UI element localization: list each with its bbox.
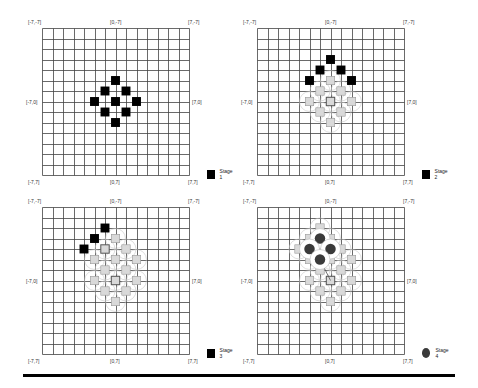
active-stage-square xyxy=(122,87,131,96)
previous-stage-square xyxy=(347,276,355,284)
previous-stage-square xyxy=(111,297,119,305)
label-top-left: [-7,-7] xyxy=(243,199,256,204)
label-top-right: [7,-7] xyxy=(403,199,414,204)
active-stage-square xyxy=(90,97,99,106)
previous-stage-square xyxy=(316,87,324,95)
previous-stage-square xyxy=(347,97,355,105)
coordinate-grid xyxy=(42,207,190,355)
previous-stage-square xyxy=(111,255,119,263)
label-mid-left: [-7,0] xyxy=(26,100,37,105)
label-top-right: [7,-7] xyxy=(403,20,414,25)
label-top-right: [7,-7] xyxy=(188,20,199,25)
label-bottom-center: [0,7] xyxy=(325,359,335,364)
legend-label: Stage 4 xyxy=(435,347,450,359)
active-stage-square xyxy=(111,97,120,106)
active-stage-square xyxy=(101,108,110,117)
active-stage-square xyxy=(347,76,356,85)
label-mid-left: [-7,0] xyxy=(241,279,252,284)
legend-label: Stage 3 xyxy=(220,347,235,359)
active-stage-square xyxy=(337,66,346,75)
previous-stage-square xyxy=(132,276,140,284)
label-bottom-left: [-7,7] xyxy=(243,359,254,364)
previous-stage-square xyxy=(316,287,324,295)
previous-stage-square xyxy=(132,255,140,263)
legend-stage-3: Stage 3 xyxy=(207,347,234,359)
active-stage-square xyxy=(316,66,325,75)
previous-stage-square xyxy=(122,287,130,295)
label-top-left: [-7,-7] xyxy=(28,20,41,25)
previous-stage-square xyxy=(326,297,334,305)
active-stage-square xyxy=(111,76,120,85)
bottom-divider-rule xyxy=(23,374,455,377)
previous-stage-square xyxy=(101,287,109,295)
label-top-center: [0,-7] xyxy=(110,20,121,25)
previous-stage-square xyxy=(122,245,130,253)
previous-stage-square xyxy=(326,97,334,105)
label-bottom-center: [0,7] xyxy=(110,180,120,185)
label-bottom-right: [7,7] xyxy=(188,359,198,364)
label-bottom-right: [7,7] xyxy=(403,359,413,364)
label-mid-left: [-7,0] xyxy=(241,100,252,105)
label-mid-right: [7,0] xyxy=(407,279,417,284)
label-bottom-left: [-7,7] xyxy=(243,180,254,185)
previous-stage-square xyxy=(90,276,98,284)
active-stage-square xyxy=(132,97,141,106)
previous-stage-square xyxy=(305,97,313,105)
previous-stage-square xyxy=(337,108,345,116)
coordinate-grid xyxy=(257,28,405,176)
active-stage-square xyxy=(111,118,120,127)
previous-stage-square xyxy=(326,118,334,126)
label-bottom-center: [0,7] xyxy=(110,359,120,364)
label-bottom-right: [7,7] xyxy=(188,180,198,185)
label-top-right: [7,-7] xyxy=(188,199,199,204)
label-top-center: [0,-7] xyxy=(325,199,336,204)
legend-stage-1: Stage 1 xyxy=(207,168,234,180)
previous-stage-square xyxy=(337,287,345,295)
previous-stage-square xyxy=(90,255,98,263)
square-marker-icon xyxy=(422,170,430,179)
previous-stage-square xyxy=(101,266,109,274)
active-stage-square xyxy=(305,76,314,85)
previous-stage-square xyxy=(111,276,119,284)
label-bottom-left: [-7,7] xyxy=(28,180,39,185)
active-stage-square xyxy=(122,108,131,117)
square-marker-icon xyxy=(207,349,215,358)
active-stage-square xyxy=(101,87,110,96)
active-stage-square xyxy=(80,245,89,254)
previous-stage-square xyxy=(347,255,355,263)
previous-stage-square xyxy=(111,234,119,242)
legend-label: Stage 2 xyxy=(435,168,450,180)
active-stage-square xyxy=(90,234,99,243)
coordinate-grid xyxy=(257,207,405,355)
legend-stage-2: Stage 2 xyxy=(422,168,449,180)
previous-stage-square xyxy=(337,87,345,95)
label-top-left: [-7,-7] xyxy=(28,199,41,204)
label-top-left: [-7,-7] xyxy=(243,20,256,25)
legend-label: Stage 1 xyxy=(220,168,235,180)
label-mid-right: [7,0] xyxy=(192,100,202,105)
label-bottom-center: [0,7] xyxy=(325,180,335,185)
label-top-center: [0,-7] xyxy=(110,199,121,204)
stage-circle-marker xyxy=(315,254,326,265)
previous-stage-square xyxy=(101,245,109,253)
circle-marker-icon xyxy=(422,348,430,358)
label-mid-right: [7,0] xyxy=(407,100,417,105)
label-top-center: [0,-7] xyxy=(325,20,336,25)
previous-stage-square xyxy=(326,76,334,84)
previous-stage-square xyxy=(316,108,324,116)
label-mid-left: [-7,0] xyxy=(26,279,37,284)
square-marker-icon xyxy=(207,170,215,179)
label-mid-right: [7,0] xyxy=(192,279,202,284)
active-stage-square xyxy=(326,55,335,64)
label-bottom-left: [-7,7] xyxy=(28,359,39,364)
previous-stage-square xyxy=(122,266,130,274)
previous-stage-square xyxy=(337,266,345,274)
label-bottom-right: [7,7] xyxy=(403,180,413,185)
legend-stage-4: Stage 4 xyxy=(422,347,450,359)
active-stage-square xyxy=(101,224,110,233)
previous-stage-square xyxy=(305,276,313,284)
coordinate-grid xyxy=(42,28,190,176)
